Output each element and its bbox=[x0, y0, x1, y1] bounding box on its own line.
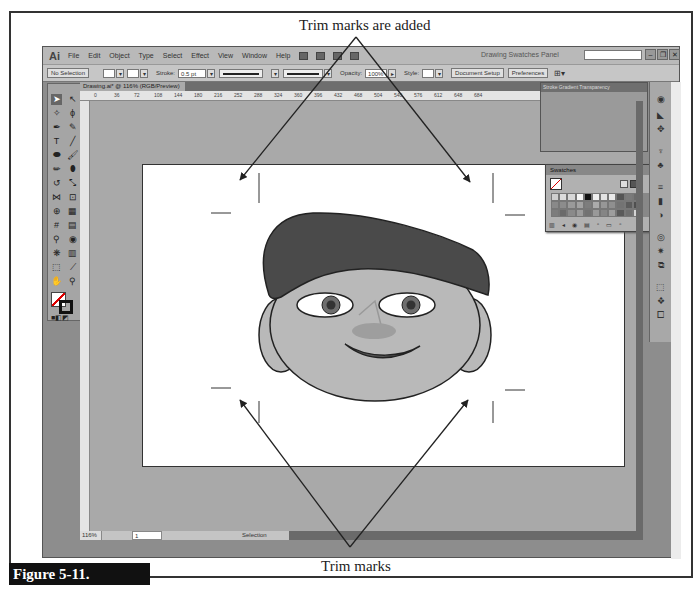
menu-select[interactable]: Select bbox=[163, 52, 182, 59]
symbol-sprayer-tool-icon[interactable]: ❋ bbox=[51, 248, 62, 259]
document-setup-button[interactable]: Document Setup bbox=[451, 68, 504, 78]
swatch-options-icon[interactable]: ◉ bbox=[572, 221, 577, 230]
magic-wand-tool-icon[interactable]: ✧ bbox=[51, 108, 62, 119]
layers-icon[interactable]: ❖ bbox=[655, 296, 666, 307]
direct-selection-tool-icon[interactable]: ↖ bbox=[67, 94, 78, 105]
pen-tool-icon[interactable]: ✒ bbox=[51, 122, 62, 133]
swatch[interactable] bbox=[592, 209, 600, 217]
menu-object[interactable]: Object bbox=[109, 52, 129, 59]
delete-swatch-icon[interactable]: ▫ bbox=[619, 221, 621, 230]
gradient-tool-icon[interactable]: ▤ bbox=[67, 220, 78, 231]
new-color-group-icon[interactable]: ▤ bbox=[584, 221, 590, 230]
layers-small-icon[interactable]: ⧉ bbox=[655, 260, 666, 271]
close-button[interactable]: ✕ bbox=[669, 49, 680, 60]
menu-help[interactable]: Help bbox=[276, 52, 290, 59]
swatch[interactable] bbox=[608, 201, 616, 209]
blob-brush-tool-icon[interactable]: ⬮ bbox=[67, 164, 78, 175]
type-tool-icon[interactable]: T bbox=[51, 136, 62, 147]
line-tool-icon[interactable]: ╱ bbox=[67, 136, 78, 147]
stroke-swatch[interactable] bbox=[127, 69, 139, 78]
swatch[interactable] bbox=[584, 201, 592, 209]
fill-stroke-indicator-icon[interactable] bbox=[550, 178, 562, 190]
swatch[interactable] bbox=[551, 201, 559, 209]
swatch[interactable] bbox=[616, 193, 624, 201]
color-guide-icon[interactable]: ◣ bbox=[655, 110, 666, 121]
swatch[interactable] bbox=[600, 201, 608, 209]
artboards-icon[interactable]: ⧠ bbox=[655, 310, 666, 321]
swatch[interactable] bbox=[559, 193, 567, 201]
symbols-icon[interactable]: ♣ bbox=[655, 160, 666, 171]
swatches-icon[interactable]: ✥ bbox=[655, 124, 666, 135]
appearance-icon[interactable]: ◎ bbox=[655, 232, 666, 243]
swatch[interactable] bbox=[567, 193, 575, 201]
swatch[interactable] bbox=[592, 193, 600, 201]
swatch[interactable] bbox=[576, 193, 584, 201]
swatch[interactable] bbox=[608, 209, 616, 217]
mesh-tool-icon[interactable]: # bbox=[51, 220, 62, 231]
slice-tool-icon[interactable]: ⟋ bbox=[67, 262, 78, 273]
blend-tool-icon[interactable]: ◉ bbox=[67, 234, 78, 245]
color-panel-icon[interactable]: ◉ bbox=[655, 94, 666, 105]
menu-window[interactable]: Window bbox=[242, 52, 267, 59]
swatch[interactable] bbox=[592, 201, 600, 209]
arrange-icon[interactable]: ⊞▾ bbox=[554, 69, 565, 78]
free-transform-tool-icon[interactable]: ⊡ bbox=[67, 192, 78, 203]
artboard-navigation[interactable]: 1 bbox=[132, 531, 162, 540]
stroke-dropdown[interactable]: ▾ bbox=[140, 69, 148, 78]
swatch[interactable] bbox=[616, 201, 624, 209]
sync-icon[interactable] bbox=[350, 52, 359, 60]
menu-edit[interactable]: Edit bbox=[88, 52, 100, 59]
gradient-icon[interactable]: ▮ bbox=[655, 196, 666, 207]
export-icon[interactable]: ⬚ bbox=[655, 282, 666, 293]
menu-effect[interactable]: Effect bbox=[191, 52, 209, 59]
swatch[interactable] bbox=[625, 209, 633, 217]
curvature-tool-icon[interactable]: ✎ bbox=[67, 122, 78, 133]
restore-button[interactable]: ❐ bbox=[657, 49, 668, 60]
vertical-scrollbar[interactable] bbox=[636, 101, 643, 531]
swatch[interactable] bbox=[625, 201, 633, 209]
panel-group-tabs[interactable]: Stroke Gradient Transparency bbox=[541, 83, 647, 92]
paintbrush-tool-icon[interactable]: 🖌 bbox=[67, 150, 78, 161]
selection-tool-icon[interactable]: ➤ bbox=[51, 94, 62, 105]
swatch[interactable] bbox=[584, 193, 592, 201]
scale-tool-icon[interactable]: ⤡ bbox=[67, 178, 78, 189]
folder-icon[interactable]: ▭ bbox=[606, 221, 612, 230]
minimize-button[interactable]: – bbox=[645, 49, 656, 60]
stroke-weight-dropdown[interactable]: ▾ bbox=[207, 69, 215, 78]
style-dropdown[interactable]: ▾ bbox=[435, 69, 443, 78]
artboard-tool-icon[interactable]: ⬚ bbox=[51, 262, 62, 273]
horizontal-scrollbar[interactable] bbox=[289, 531, 643, 540]
list-view-icon[interactable] bbox=[620, 180, 628, 188]
color-mode-icon[interactable]: ■◧◩ bbox=[51, 312, 62, 323]
show-swatch-kinds-icon[interactable]: ◂ bbox=[562, 221, 565, 230]
width-tool-icon[interactable]: ⋈ bbox=[51, 192, 62, 203]
workspace-switcher[interactable]: Drawing Swatches Panel bbox=[481, 51, 559, 58]
document-tab[interactable]: Drawing.ai* @ 116% (RGB/Preview) bbox=[80, 82, 185, 91]
arrange-documents-icon[interactable] bbox=[333, 52, 342, 60]
swatch[interactable] bbox=[567, 209, 575, 217]
zoom-level[interactable]: 116% bbox=[80, 531, 102, 540]
new-swatch-icon[interactable]: ▫ bbox=[597, 221, 599, 230]
menu-type[interactable]: Type bbox=[139, 52, 154, 59]
zoom-tool-icon[interactable]: ⚲ bbox=[67, 276, 78, 287]
preferences-button[interactable]: Preferences bbox=[508, 68, 548, 78]
swatch[interactable] bbox=[576, 209, 584, 217]
swatch[interactable] bbox=[600, 209, 608, 217]
opacity-field[interactable]: 100% bbox=[365, 69, 387, 78]
fill-dropdown[interactable]: ▾ bbox=[116, 69, 124, 78]
pencil-tool-icon[interactable]: ✏ bbox=[51, 164, 62, 175]
swatch[interactable] bbox=[551, 193, 559, 201]
brush-dropdown[interactable]: ▾ bbox=[324, 69, 332, 78]
lasso-tool-icon[interactable]: ϕ bbox=[67, 108, 78, 119]
ellipse-tool-icon[interactable]: ⬬ bbox=[51, 150, 62, 161]
swatch[interactable] bbox=[567, 201, 575, 209]
stroke-icon[interactable]: ≡ bbox=[655, 182, 666, 193]
swatch[interactable] bbox=[551, 209, 559, 217]
stock-icon[interactable] bbox=[316, 52, 325, 60]
swatch[interactable] bbox=[616, 209, 624, 217]
menu-view[interactable]: View bbox=[218, 52, 233, 59]
eyedropper-tool-icon[interactable]: ⚲ bbox=[51, 234, 62, 245]
swatch[interactable] bbox=[608, 193, 616, 201]
transparency-icon[interactable]: ◑ bbox=[655, 210, 666, 221]
graph-tool-icon[interactable]: ▥ bbox=[67, 248, 78, 259]
